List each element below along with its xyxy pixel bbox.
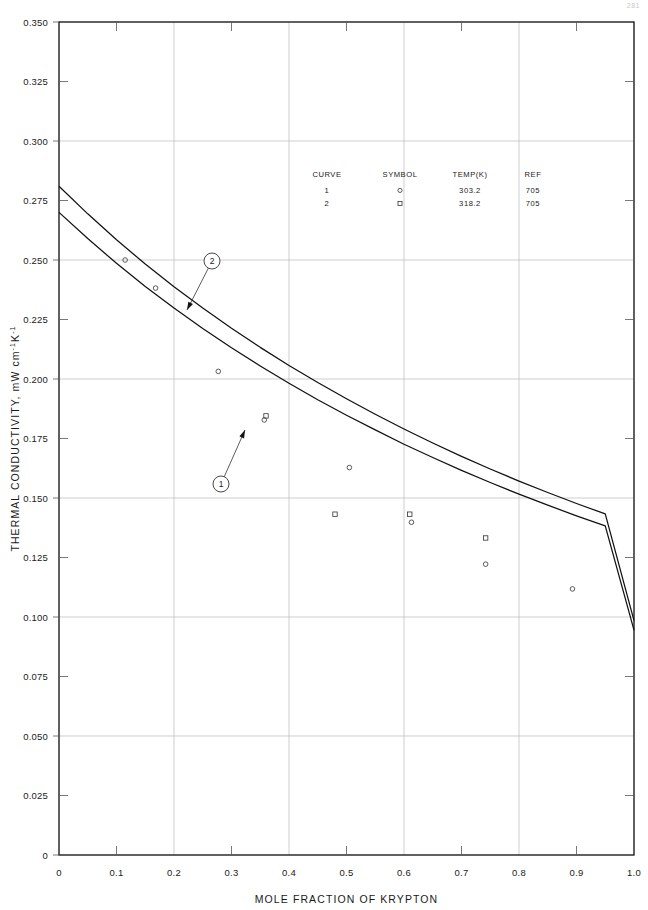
y-tick-label: 0.075 bbox=[23, 671, 48, 682]
y-tick-label: 0.325 bbox=[23, 76, 48, 87]
legend-symbol-circle bbox=[398, 188, 402, 192]
legend-curve-number: 1 bbox=[325, 186, 330, 195]
y-tick-label: 0.025 bbox=[23, 790, 48, 801]
curve-2 bbox=[59, 186, 634, 620]
thermal-conductivity-chart: 00.10.20.30.40.50.60.70.80.91.000.0250.0… bbox=[0, 0, 648, 910]
x-tick-label: 0.4 bbox=[282, 867, 296, 878]
data-points bbox=[123, 258, 575, 592]
x-tick-label: 1.0 bbox=[627, 867, 641, 878]
data-point-square bbox=[408, 512, 412, 516]
x-tick-label: 0.2 bbox=[167, 867, 181, 878]
annotation-leader-line bbox=[221, 430, 245, 484]
x-tick-label: 0.8 bbox=[512, 867, 526, 878]
data-point-circle bbox=[153, 286, 158, 291]
data-point-circle bbox=[347, 465, 352, 470]
annotation-label: 1 bbox=[219, 479, 224, 489]
y-tick-label: 0.275 bbox=[23, 195, 48, 206]
gridlines bbox=[59, 22, 634, 855]
figure-container: 281 00.10.20.30.40.50.60.70.80.91.000.02… bbox=[0, 0, 648, 910]
x-tick-label: 0.9 bbox=[570, 867, 584, 878]
y-tick-label: 0.300 bbox=[23, 136, 48, 147]
x-axis-title: MOLE FRACTION OF KRYPTON bbox=[255, 893, 439, 905]
legend-header: REF bbox=[525, 170, 542, 179]
y-tick-label: 0 bbox=[43, 850, 48, 861]
y-tick-label: 0.050 bbox=[23, 731, 48, 742]
data-point-circle bbox=[570, 587, 575, 592]
legend-header: TEMP(K) bbox=[452, 170, 487, 179]
y-axis-tick-labels: 00.0250.0500.0750.1000.1250.1500.1750.20… bbox=[23, 17, 48, 861]
y-tick-label: 0.175 bbox=[23, 433, 48, 444]
legend-temperature: 303.2 bbox=[459, 186, 481, 195]
data-curves bbox=[59, 186, 634, 630]
y-tick-label: 0.100 bbox=[23, 612, 48, 623]
legend-curve-number: 2 bbox=[325, 199, 330, 208]
legend-reference: 705 bbox=[526, 186, 540, 195]
x-tick-label: 0.7 bbox=[455, 867, 469, 878]
y-tick-label: 0.350 bbox=[23, 17, 48, 28]
data-point-circle bbox=[409, 520, 414, 525]
page-number: 281 bbox=[627, 2, 640, 9]
legend-symbol-square bbox=[398, 201, 402, 205]
y-tick-label: 0.225 bbox=[23, 314, 48, 325]
x-tick-label: 0.6 bbox=[397, 867, 411, 878]
data-point-circle bbox=[483, 562, 488, 567]
y-tick-label: 0.250 bbox=[23, 255, 48, 266]
annotation-arrowhead bbox=[239, 430, 245, 438]
legend-header: SYMBOL bbox=[383, 170, 418, 179]
legend-temperature: 318.2 bbox=[459, 199, 481, 208]
axis-ticks bbox=[53, 22, 634, 855]
data-point-square bbox=[333, 512, 337, 516]
legend-table: CURVESYMBOLTEMP(K)REF1303.27052318.2705 bbox=[312, 170, 541, 208]
x-tick-label: 0.1 bbox=[110, 867, 124, 878]
plot-frame bbox=[59, 22, 634, 855]
curve-1 bbox=[59, 212, 634, 630]
y-axis-title: THERMAL CONDUCTIVITY, mW cm-1K-1 bbox=[9, 325, 21, 551]
y-tick-label: 0.200 bbox=[23, 374, 48, 385]
x-tick-label: 0.5 bbox=[340, 867, 354, 878]
annotation-label: 2 bbox=[210, 256, 215, 266]
x-axis-tick-labels: 00.10.20.30.40.50.60.70.80.91.0 bbox=[56, 867, 641, 878]
x-tick-label: 0 bbox=[56, 867, 61, 878]
y-tick-label: 0.150 bbox=[23, 493, 48, 504]
legend-reference: 705 bbox=[526, 199, 540, 208]
x-tick-label: 0.3 bbox=[225, 867, 239, 878]
annotation-arrowhead bbox=[187, 302, 193, 310]
data-point-square bbox=[483, 536, 487, 540]
data-point-circle bbox=[216, 369, 221, 374]
legend-header: CURVE bbox=[312, 170, 341, 179]
y-tick-label: 0.125 bbox=[23, 552, 48, 563]
